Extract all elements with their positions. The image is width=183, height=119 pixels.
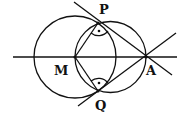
tangent-line-aq: [78, 33, 176, 106]
point-a: [144, 55, 147, 58]
segment-mp: [75, 23, 98, 57]
segment-mq: [75, 57, 98, 91]
right-angle-dot-p: [98, 30, 101, 33]
label-m: M: [54, 63, 68, 78]
point-m: [73, 55, 76, 58]
tangent-line-ap: [74, 2, 172, 75]
point-p: [96, 21, 99, 24]
label-p: P: [99, 2, 109, 17]
label-a: A: [145, 63, 157, 78]
geometry-diagram: P Q M A: [0, 0, 183, 119]
point-q: [96, 89, 99, 92]
right-angle-dot-q: [98, 82, 101, 85]
label-q: Q: [95, 98, 106, 113]
